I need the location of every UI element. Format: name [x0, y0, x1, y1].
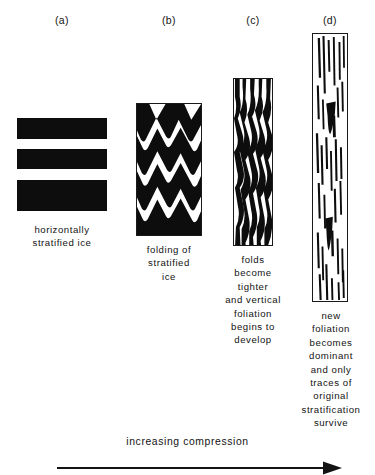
panel-label-a: (a): [17, 14, 107, 26]
panel-caption-d: new foliation becomes dominant and only …: [288, 309, 374, 430]
compression-arrow-icon: [0, 448, 375, 475]
panel-caption-a: horizontally stratified ice: [2, 223, 122, 250]
panel-d-graphic: [313, 34, 347, 301]
panel-caption-c: folds become tighter and vertical foliat…: [214, 253, 292, 347]
panel-caption-b: folding of stratified ice: [128, 243, 210, 283]
panel-a-graphic: [17, 118, 107, 211]
panel-d-foliation: [312, 33, 348, 302]
panel-c-graphic: [234, 79, 272, 245]
compression-axis: increasing compression: [0, 436, 375, 468]
figure-canvas: (a) horizontally stratified ice (b): [0, 0, 375, 475]
compression-axis-label: increasing compression: [0, 436, 375, 447]
panel-label-d: (d): [312, 14, 348, 26]
panel-label-b: (b): [136, 14, 202, 26]
panel-a-stratified-ice: [17, 118, 107, 211]
panel-b-graphic: [137, 104, 201, 235]
panel-b-folding: [136, 103, 202, 236]
panel-label-c: (c): [233, 14, 273, 26]
panel-c-tight-folds: [233, 78, 273, 246]
